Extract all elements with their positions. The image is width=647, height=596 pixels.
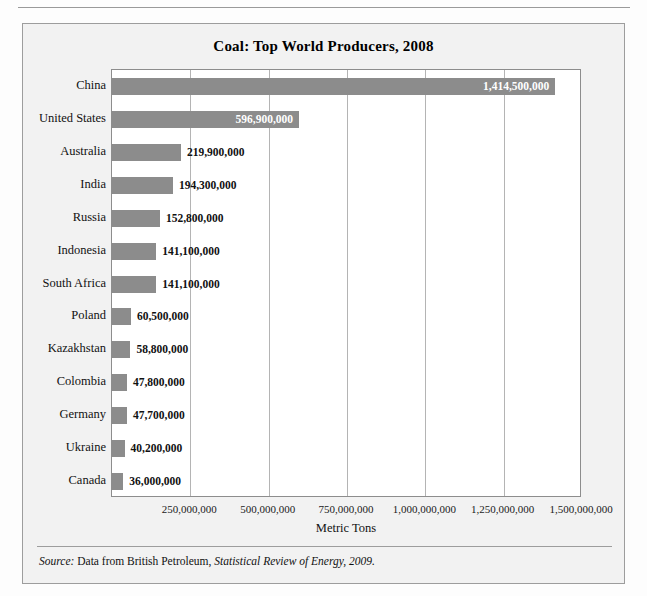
bar-value-label: 47,700,000 bbox=[133, 407, 185, 424]
bar[interactable] bbox=[112, 144, 181, 161]
bar-value-label: 58,800,000 bbox=[136, 341, 188, 358]
bar-series: 1,414,500,000596,900,000219,900,000194,3… bbox=[112, 70, 580, 496]
chart-page: { "chart_data": { "type": "bar", "orient… bbox=[0, 0, 647, 596]
source-divider bbox=[37, 546, 612, 547]
category-label: United States bbox=[39, 110, 106, 127]
bar[interactable] bbox=[112, 177, 173, 194]
figure-container: Coal: Top World Producers, 2008 ChinaUni… bbox=[22, 23, 625, 584]
category-label: China bbox=[76, 77, 106, 94]
tick-label: 250,000,000 bbox=[162, 503, 217, 515]
bar-row[interactable]: 141,100,000 bbox=[112, 276, 582, 293]
bar[interactable] bbox=[112, 440, 125, 457]
category-label: Kazakhstan bbox=[48, 340, 106, 357]
category-label: India bbox=[80, 176, 106, 193]
bar[interactable] bbox=[112, 308, 131, 325]
bar-value-label: 141,100,000 bbox=[162, 276, 220, 293]
category-label: Canada bbox=[69, 472, 106, 489]
tick-label: 750,000,000 bbox=[319, 503, 374, 515]
bar[interactable] bbox=[112, 374, 127, 391]
source-publication: Statistical Review of Energy, 2009. bbox=[214, 555, 375, 567]
bar-row[interactable]: 47,700,000 bbox=[112, 407, 582, 424]
bar-row[interactable]: 141,100,000 bbox=[112, 243, 582, 260]
bar-value-label: 219,900,000 bbox=[187, 144, 245, 161]
bar-value-label: 47,800,000 bbox=[133, 374, 185, 391]
bar-row[interactable]: 596,900,000 bbox=[112, 111, 582, 128]
bar-value-label: 60,500,000 bbox=[137, 308, 189, 325]
bar-row[interactable]: 219,900,000 bbox=[112, 144, 582, 161]
bar-row[interactable]: 152,800,000 bbox=[112, 210, 582, 227]
bar-row[interactable]: 58,800,000 bbox=[112, 341, 582, 358]
category-label: Indonesia bbox=[57, 242, 106, 259]
bar[interactable] bbox=[112, 473, 123, 490]
category-label: Poland bbox=[71, 307, 106, 324]
chart-title: Coal: Top World Producers, 2008 bbox=[23, 38, 624, 55]
category-label: South Africa bbox=[42, 275, 106, 292]
tick-label: 1,500,000,000 bbox=[549, 503, 612, 515]
bar[interactable] bbox=[112, 243, 156, 260]
bar-row[interactable]: 194,300,000 bbox=[112, 177, 582, 194]
bar-value-label: 596,900,000 bbox=[236, 111, 294, 128]
category-label: Russia bbox=[73, 209, 106, 226]
value-axis-tick-labels: 250,000,000500,000,000750,000,0001,000,0… bbox=[111, 503, 581, 519]
bar[interactable] bbox=[112, 210, 160, 227]
bar-value-label: 152,800,000 bbox=[166, 210, 224, 227]
bar-value-label: 194,300,000 bbox=[179, 177, 237, 194]
tick-label: 1,250,000,000 bbox=[471, 503, 534, 515]
bar-row[interactable]: 40,200,000 bbox=[112, 440, 582, 457]
category-axis-labels: ChinaUnited StatesAustraliaIndiaRussiaIn… bbox=[23, 69, 106, 497]
tick-label: 1,000,000,000 bbox=[393, 503, 456, 515]
category-label: Ukraine bbox=[66, 439, 106, 456]
bar-value-label: 40,200,000 bbox=[131, 440, 183, 457]
tick-label: 500,000,000 bbox=[240, 503, 295, 515]
bar-value-label: 141,100,000 bbox=[162, 243, 220, 260]
category-label: Germany bbox=[59, 406, 106, 423]
x-axis-title: Metric Tons bbox=[111, 521, 581, 536]
category-label: Australia bbox=[60, 143, 106, 160]
category-label: Colombia bbox=[57, 373, 106, 390]
bar[interactable] bbox=[112, 407, 127, 424]
page-top-rule bbox=[18, 7, 630, 8]
bar[interactable] bbox=[112, 341, 130, 358]
source-prefix: Source: bbox=[39, 555, 74, 567]
bar[interactable] bbox=[112, 276, 156, 293]
plot-area: 1,414,500,000596,900,000219,900,000194,3… bbox=[111, 69, 581, 497]
bar-value-label: 36,000,000 bbox=[129, 473, 181, 490]
bar-row[interactable]: 1,414,500,000 bbox=[112, 78, 582, 95]
bar-row[interactable]: 60,500,000 bbox=[112, 308, 582, 325]
source-note: Source: Data from British Petroleum, Sta… bbox=[39, 555, 375, 567]
bar-row[interactable]: 36,000,000 bbox=[112, 473, 582, 490]
bar-row[interactable]: 47,800,000 bbox=[112, 374, 582, 391]
bar-value-label: 1,414,500,000 bbox=[483, 78, 549, 95]
source-text: Data from British Petroleum, bbox=[74, 555, 214, 567]
